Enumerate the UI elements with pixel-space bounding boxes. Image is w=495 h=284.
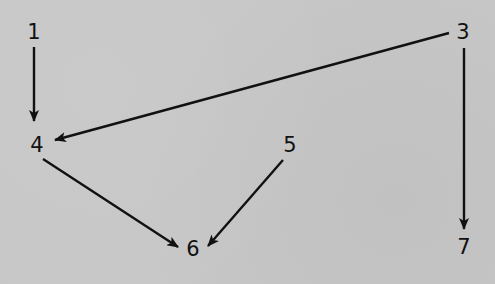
node-1: 1 bbox=[27, 22, 40, 43]
node-3: 3 bbox=[456, 22, 469, 43]
node-7: 7 bbox=[457, 237, 470, 258]
node-4: 4 bbox=[30, 135, 43, 156]
edge-4-to-6 bbox=[43, 159, 178, 247]
edge-3-to-4 bbox=[55, 33, 449, 140]
edge-5-to-6 bbox=[208, 160, 283, 246]
node-5: 5 bbox=[283, 135, 296, 156]
graph-diagram: 1 3 4 5 6 7 bbox=[0, 0, 495, 284]
node-6: 6 bbox=[186, 239, 199, 260]
edges-layer bbox=[0, 0, 495, 284]
